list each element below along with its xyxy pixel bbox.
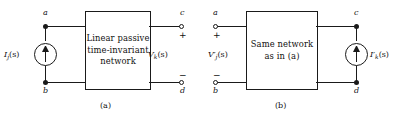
label-output-b: I′k(s) — [370, 50, 389, 60]
terminal-label-b-text: b — [43, 86, 48, 95]
box-b-line1: Same network — [251, 39, 314, 49]
box-a-line3: network — [100, 56, 136, 66]
wire-b-top-left — [216, 26, 246, 27]
wire-a-top — [45, 26, 85, 27]
polarity-plus-a-text: + — [179, 30, 187, 40]
network-box-a: Linear passive time-invariant network — [85, 11, 151, 90]
network-box-b: Same network as in (a) — [246, 11, 318, 90]
terminal-label-c-b: c — [354, 8, 358, 17]
label-output-a-arg: (s) — [157, 50, 167, 59]
terminal-label-a-b-text: a — [213, 8, 218, 17]
terminal-label-d-b-text: d — [354, 86, 359, 95]
polarity-minus-a: − — [179, 72, 187, 79]
caption-a: (a) — [100, 101, 111, 110]
terminal-node-c — [179, 24, 184, 29]
polarity-plus-a: + — [179, 32, 187, 39]
box-a-line2: time-invariant — [87, 45, 148, 55]
terminal-label-a-text: a — [43, 8, 48, 17]
current-source-a-arrow-head — [42, 46, 49, 52]
box-a-line1: Linear passive — [87, 33, 150, 43]
network-box-b-text: Same network as in (a) — [251, 39, 314, 62]
label-output-b-arg: (s) — [379, 50, 389, 59]
terminal-label-b-b-text: b — [213, 86, 218, 95]
polarity-minus-a-text: − — [179, 70, 187, 80]
label-source-b-arg: (s) — [217, 50, 227, 59]
network-box-a-text: Linear passive time-invariant network — [87, 33, 150, 68]
terminal-label-c: c — [180, 8, 184, 17]
terminal-label-d: d — [180, 86, 185, 95]
terminal-node-a-b — [213, 24, 218, 29]
terminal-label-d-text: d — [180, 86, 185, 95]
wire-a-bottom-right — [149, 82, 181, 83]
wire-b-bottom-left — [216, 82, 246, 83]
current-source-b-arrow-head — [353, 46, 360, 52]
terminal-label-a: a — [43, 8, 48, 17]
label-source-a-arg: (s) — [9, 50, 19, 59]
terminal-node-c-b — [354, 24, 359, 29]
polarity-minus-b-text: − — [213, 70, 221, 80]
caption-b: (b) — [275, 101, 286, 110]
wire-a-top-right — [149, 26, 181, 27]
polarity-plus-b-text: + — [213, 30, 221, 40]
polarity-minus-b: − — [213, 72, 221, 79]
terminal-label-c-b-text: c — [354, 8, 358, 17]
figure-canvas: Linear passive time-invariant network Ij… — [0, 0, 397, 118]
terminal-node-d — [179, 80, 184, 85]
terminal-label-b: b — [43, 86, 48, 95]
caption-a-text: (a) — [100, 101, 111, 110]
wire-a-bottom — [45, 82, 85, 83]
label-source-b: V′j(s) — [208, 50, 228, 60]
terminal-node-d-b — [354, 80, 359, 85]
polarity-plus-b: + — [213, 32, 221, 39]
terminal-label-a-b: a — [213, 8, 218, 17]
box-b-line2: as in (a) — [264, 51, 299, 61]
terminal-label-c-text: c — [180, 8, 184, 17]
caption-b-text: (b) — [275, 101, 286, 110]
terminal-node-b — [43, 80, 48, 85]
label-source-a: Ij(s) — [4, 50, 19, 60]
label-output-a: Vk(s) — [148, 50, 168, 60]
wire-b-bottom-right — [316, 82, 356, 83]
terminal-node-b-b — [213, 80, 218, 85]
terminal-node-a — [43, 24, 48, 29]
terminal-label-b-b: b — [213, 86, 218, 95]
wire-b-top-right — [316, 26, 356, 27]
terminal-label-d-b: d — [354, 86, 359, 95]
